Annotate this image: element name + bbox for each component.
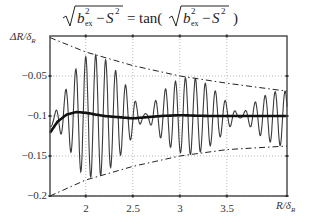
x-tick-label: 3.5: [220, 202, 234, 214]
x-axis-label: R/δR: [276, 199, 295, 214]
y-tick-label: −0.05: [22, 69, 47, 81]
y-tick-label: −0.1: [27, 109, 47, 121]
y-tick-label: −0.2: [27, 189, 47, 201]
x-tick-label: 2.5: [126, 202, 140, 214]
y-tick-label: −0.15: [22, 149, 47, 161]
plot-area: [0, 0, 321, 222]
y-axis-label: ΔR/δR: [10, 30, 36, 45]
x-tick-label: 2: [83, 202, 89, 214]
x-tick-label: 3: [177, 202, 183, 214]
